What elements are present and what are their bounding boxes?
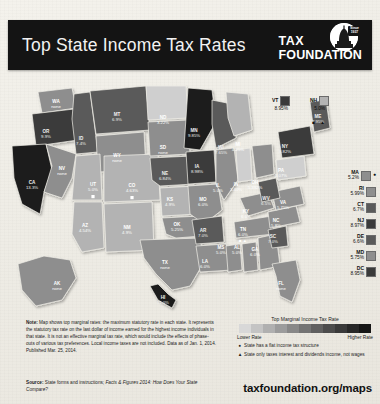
nh-abbr: NH [310,98,317,103]
state-rate-nm: 4.9% [122,230,132,235]
state-rate-wy: none [112,158,122,163]
state-rate-co: 4.63% [126,188,138,193]
nh-markers: ■ ▲ [312,120,327,125]
small-state-swatch [366,267,376,277]
nh-swatch [319,96,329,106]
nh-rate: 5.0% [310,106,329,111]
small-state-rate: 8.95% [350,271,364,276]
small-state-rate: 5.99% [350,191,364,196]
state-ia [186,150,216,184]
state-rate-wa: none [51,104,61,109]
ramp-low-label: Lower Rate [237,335,262,340]
vt-swatch [280,96,290,106]
ramp-step-4 [287,324,299,333]
flat-tax-dot-icon: ● [236,343,244,349]
map-legend: Top Marginal Income Tax Rate Lower Rate … [236,316,374,359]
ramp-step-10 [359,324,371,333]
ramp-step-9 [347,324,359,333]
state-rate-wi: 7.65% [215,150,227,155]
state-rate-nc: 5.8% [271,223,281,228]
state-rate-wv: 6.5% [261,201,271,206]
ramp-step-1 [251,324,263,333]
state-rate-nd: 3.22% [157,120,169,125]
state-rate-ia: 8.98% [191,169,203,174]
source-body: State forms and instructions; [43,380,105,385]
state-sd [148,120,190,156]
note-label: Note: [26,320,38,325]
since-badge: Since 1937 [348,26,361,36]
state-rate-ne: 6.84% [159,176,171,181]
ramp-step-5 [299,324,311,333]
color-ramp [239,324,371,333]
site-url[interactable]: taxfoundation.org/maps [243,382,372,394]
legend-interest-only: ▲ State only taxes interest and dividend… [236,352,374,358]
flat-tax-marker-co [130,196,133,199]
top-state-vt: VT 8.95% [272,96,290,111]
state-rate-la: 6.0% [200,264,210,269]
state-rate-mn: 9.85% [188,133,200,138]
state-rate-ky: 6.0% [241,214,251,219]
state-rate-sd: none [158,150,168,155]
state-ar [192,216,224,244]
state-mn [184,88,216,150]
state-rate-ar: 7.0% [198,233,208,238]
state-rate-ny: 8.82% [279,149,291,154]
state-rate-or: 9.9% [41,134,51,139]
logo-foundation-text: FOUNDATION [279,49,362,62]
state-nd [146,86,188,120]
small-state-swatch [366,251,376,261]
legend-title: Top Marginal Income Tax Rate [236,316,374,322]
state-rate-in: 3.40% [230,187,242,192]
state-rate-il: 5.0% [213,188,223,193]
since-year: 1937 [351,30,359,34]
source-label: Source: [26,380,43,385]
small-state-swatch [366,203,376,213]
state-fl [272,260,300,302]
state-rate-ok: 5.25% [171,227,183,232]
small-state-rate: 6.6% [353,239,364,244]
interest-marker-tn: ■ ▲ [239,238,247,243]
state-ak [18,256,76,306]
map-note: Note: Map shows top marginal rates: the … [26,320,216,355]
flat-tax-dot-icon: ● [373,171,376,177]
interest-only-text: State only taxes interest and dividends … [244,352,365,358]
tax-foundation-logo: Since 1937 TAX FOUNDATION [279,23,362,67]
ramp-step-6 [311,324,323,333]
vt-abbr: VT [272,98,278,103]
state-tx [140,238,204,290]
state-rate-ut: 5.0% [88,187,98,192]
note-body: Map shows top marginal rates: the maximu… [26,320,216,353]
small-state-rate: 5.75% [350,255,364,260]
state-rate-az: 4.54% [79,228,91,233]
ramp-step-8 [335,324,347,333]
state-rate-mt: 6.9% [112,117,122,122]
state-rate-al: 5.0% [232,250,242,255]
ramp-step-3 [275,324,287,333]
state-rate-ks: 4.9% [165,202,175,207]
state-in [236,148,252,182]
ramp-step-2 [263,324,275,333]
us-choropleth-map: WAnoneOR9.9%CA13.3%ID7.4%NVnoneMT6.9%WYn… [0,74,380,314]
state-ut [72,154,102,200]
small-state-row: NJ8.97% [326,218,376,233]
state-or [32,109,78,146]
map-source: Source: State forms and instructions; Fa… [26,379,211,393]
state-rate-fl: none [276,286,286,291]
page-title: Top State Income Tax Rates [22,35,246,56]
small-state-rate: 5.2% [348,175,359,180]
state-rate-pa: 3.07% [275,173,287,178]
state-rate-oh: 5.392% [248,185,263,190]
interest-triangle-icon: ▲ [236,352,244,358]
vt-rate: 8.95% [272,106,290,111]
small-state-swatch [366,219,376,229]
small-state-swatch [366,235,376,245]
state-rate-ga: 6.0% [250,252,260,257]
state-rate-ms: 5.0% [216,250,226,255]
legend-flat-tax: ● State has a flat income tax structure [236,343,374,349]
top-state-nh: NH 5.0% ■ ▲ [310,96,329,128]
small-state-row: MD5.75% [326,250,376,265]
small-state-row: RI5.99% [326,186,376,201]
flat-tax-text: State has a flat income tax structure [244,343,319,349]
state-rate-nv: none [57,171,67,176]
flat-tax-marker-ut [91,195,94,198]
